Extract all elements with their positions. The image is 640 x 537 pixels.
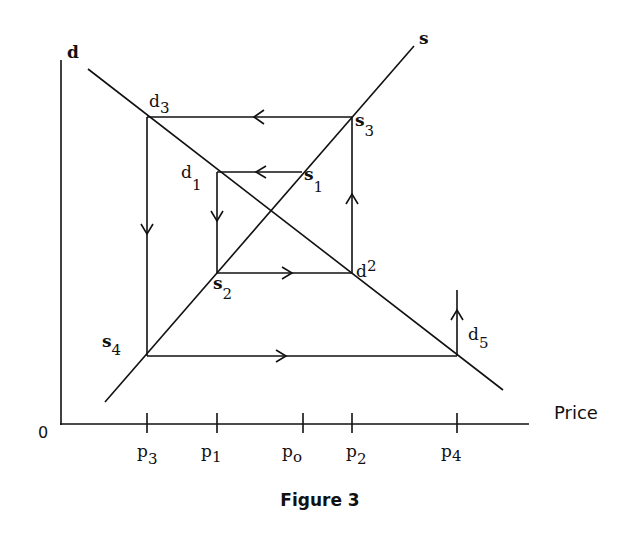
supply-label: s [419, 28, 429, 48]
point-d1: d1 [181, 162, 201, 194]
tick-label-p0: po [282, 441, 302, 466]
tick-label-p3: p3 [137, 441, 157, 468]
point-s3: s3 [355, 110, 374, 140]
point-s2: s2 [213, 273, 232, 303]
point-s4: s4 [102, 331, 121, 359]
tick-label-p1: p1 [201, 441, 221, 466]
origin-label: 0 [38, 423, 48, 442]
cobweb-diagram: d s d3 s3 d1 s1 s2 d2 s4 d5 0 Price p3 p… [0, 0, 640, 537]
tick-label-p4: p4 [441, 441, 461, 465]
point-d2: d2 [356, 257, 376, 281]
point-d5: d5 [468, 324, 488, 352]
x-axis-title: Price [554, 402, 598, 423]
point-s1: s1 [304, 164, 323, 196]
tick-label-p2: p2 [346, 441, 366, 468]
figure-caption: Figure 3 [0, 490, 640, 510]
point-d3: d3 [149, 91, 169, 117]
demand-label: d [67, 42, 79, 62]
